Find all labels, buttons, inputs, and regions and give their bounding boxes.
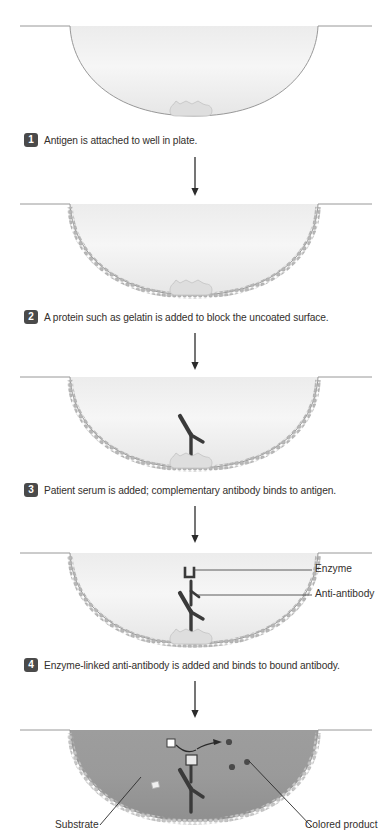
- panel-step-4: [0, 545, 389, 657]
- step-row-4: 4 Enzyme-linked anti-antibody is added a…: [24, 658, 340, 672]
- down-arrow-icon-1: [186, 157, 204, 197]
- anti-antibody-label: Anti-antibody: [315, 588, 374, 599]
- elisa-figure: 1 Antigen is attached to well in plate.: [0, 0, 389, 831]
- colored-product-icon: [226, 739, 232, 745]
- step-badge-2: 2: [24, 310, 38, 324]
- well-illustration-2: [0, 199, 389, 309]
- colored-product-icon: [244, 759, 250, 765]
- step-badge-4: 4: [24, 658, 38, 672]
- substrate-icon: [151, 781, 159, 788]
- substrate-icon: [167, 739, 175, 747]
- well-illustration-5: [0, 719, 389, 831]
- colored-product-icon: [229, 764, 235, 770]
- step-text-3: Patient serum is added; complementary an…: [44, 485, 336, 496]
- step-row-1: 1 Antigen is attached to well in plate.: [24, 133, 197, 147]
- enzyme-label: Enzyme: [315, 563, 352, 574]
- enzyme-icon: [186, 755, 197, 765]
- down-arrow-icon-3: [186, 506, 204, 544]
- step-text-4: Enzyme-linked anti-antibody is added and…: [44, 660, 340, 671]
- step-badge-1: 1: [24, 133, 38, 147]
- step-text-1: Antigen is attached to well in plate.: [44, 135, 197, 146]
- substrate-label: Substrate: [55, 819, 99, 830]
- step-badge-3: 3: [24, 483, 38, 497]
- panel-step-3: [0, 372, 389, 482]
- step-text-2: A protein such as gelatin is added to bl…: [44, 312, 329, 323]
- step-row-3: 3 Patient serum is added; complementary …: [24, 483, 336, 497]
- well-illustration-4: [0, 545, 389, 657]
- panel-step-1: [0, 0, 389, 130]
- step-row-2: 2 A protein such as gelatin is added to …: [24, 310, 329, 324]
- down-arrow-icon-4: [186, 681, 204, 719]
- well-illustration-1: [0, 0, 389, 130]
- panel-step-5: [0, 719, 389, 831]
- panel-step-2: [0, 199, 389, 309]
- down-arrow-icon-2: [186, 333, 204, 371]
- colored-product-label: Colored product: [305, 819, 378, 830]
- well-illustration-3: [0, 372, 389, 482]
